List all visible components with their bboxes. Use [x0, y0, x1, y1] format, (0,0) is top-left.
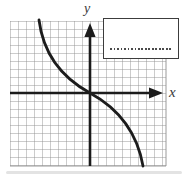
dotted-blank-line: [110, 48, 172, 50]
function-graph-figure: y x: [0, 0, 188, 177]
answer-box: [103, 18, 179, 59]
x-axis-label: x: [169, 85, 176, 100]
y-axis-label: y: [84, 2, 90, 16]
scan-artifact: [6, 171, 182, 174]
